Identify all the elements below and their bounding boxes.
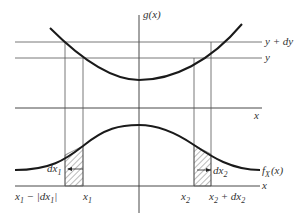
tick-label-x2-plus-dx2: x2 + dx2 <box>208 190 245 205</box>
g-of-x-curve <box>50 24 242 80</box>
g-of-x-label: g(x) <box>143 8 161 21</box>
y-label: y <box>264 51 270 63</box>
g-of-x-transformation-diagram: g(x) y + dy y x x fX(x) dx1 dx2 x1 − |dx… <box>0 0 305 215</box>
bottom-x-axis-label: x <box>261 179 267 191</box>
fx-label: fX(x) <box>262 164 283 179</box>
dx1-label: dx1 <box>47 162 61 177</box>
tick-label-x1-minus-dx1: x1 − |dx1| <box>14 190 57 205</box>
top-x-axis-label: x <box>253 109 259 121</box>
tick-label-x2: x2 <box>180 190 190 205</box>
y-plus-dy-label: y + dy <box>264 35 293 47</box>
dx2-label: dx2 <box>213 164 227 179</box>
tick-label-x1: x1 <box>82 190 92 205</box>
